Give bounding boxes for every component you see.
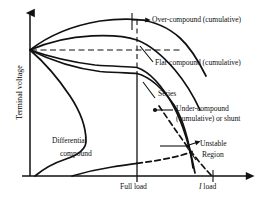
curve-series (30, 50, 193, 168)
leader-series (143, 82, 155, 98)
i-load-word: load (201, 182, 216, 191)
curve-lower-branch-solid (72, 163, 137, 176)
label-differential-line2: compound (60, 149, 92, 159)
y-axis-label: Terminal voltage (15, 50, 24, 136)
curves (30, 19, 206, 176)
label-unstable-line2: Region (202, 150, 224, 160)
marker-under-compound-dot (153, 108, 157, 112)
characteristics-plot (0, 0, 268, 199)
label-under-compound-line2: (cumulative) or shunt (176, 114, 240, 124)
curve-under-compound (30, 50, 195, 173)
label-series: Series (158, 89, 176, 99)
label-over-compound: Over-compound (cumulative) (152, 15, 241, 25)
x-tick-label-i-load: I load (199, 182, 216, 192)
curve-lower-branch-dashed (137, 152, 192, 164)
x-tick-label-full-load: Full load (120, 182, 147, 192)
label-unstable-line1: Unstable (200, 139, 227, 149)
label-under-compound-line1: Under-compound (176, 104, 229, 114)
label-differential-line1: Differential (52, 136, 87, 146)
figure-container: Terminal voltage Over-compound (cumulati… (0, 0, 268, 199)
label-flat-compound: Flat-compound (cumulative) (155, 58, 241, 68)
